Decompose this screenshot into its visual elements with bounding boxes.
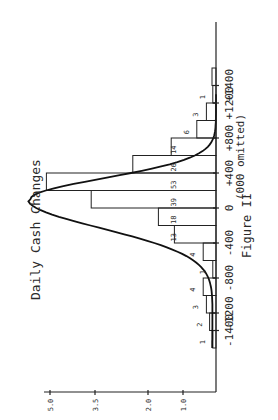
bin-count-label: 2: [196, 323, 204, 327]
x-tick-label: +1400: [223, 69, 236, 102]
x-axis-unit-label: (000 omitted): [234, 114, 247, 200]
y-tick-label: 5.0: [47, 399, 55, 412]
y-tick-label: 2.0: [145, 399, 153, 412]
bin-count-label: 39: [170, 198, 178, 206]
bin-count-label: 6: [183, 130, 191, 134]
x-tick-label: -1200: [223, 296, 236, 329]
bin-count-label: 4: [189, 288, 197, 292]
bin-count-label: 1: [199, 95, 207, 99]
bin-count-label: 3: [192, 113, 200, 117]
histogram-bar: [91, 191, 216, 209]
bin-count-label: 18: [170, 216, 178, 224]
bin-count-label: 14: [170, 146, 178, 154]
histogram-bar: [46, 173, 216, 191]
x-tick-label: 0: [223, 205, 236, 212]
x-tick-label: -800: [223, 265, 236, 292]
bin-count-label: 3: [192, 305, 200, 309]
chart-title: Daily Cash Changes: [28, 159, 43, 300]
histogram-chart: -1400-1200-800-4000+400+800+1200+1400 1.…: [0, 0, 278, 420]
histogram-bar: [206, 103, 216, 121]
histogram-bar: [206, 296, 216, 314]
bin-count-labels: 123414131839532614631: [170, 95, 207, 344]
bin-count-label: 26: [170, 163, 178, 171]
histogram-bars: [46, 68, 216, 348]
figure-caption: Figure II: [240, 193, 254, 258]
bin-count-label: 1: [199, 340, 207, 344]
x-tick-label: -400: [223, 230, 236, 257]
histogram-bar: [174, 226, 216, 244]
bin-count-label: 1: [199, 270, 207, 274]
histogram-bar: [203, 243, 216, 261]
y-tick-label: 3.5: [92, 399, 100, 412]
y-axis-ticks: 1.02.03.55.0: [47, 390, 188, 411]
histogram-bar: [158, 208, 216, 226]
y-tick-label: 1.0: [180, 399, 188, 412]
bin-count-label: 53: [170, 181, 178, 189]
histogram-bar: [197, 121, 216, 139]
bin-count-label: 4: [189, 253, 197, 257]
bin-count-label: 13: [170, 233, 178, 241]
